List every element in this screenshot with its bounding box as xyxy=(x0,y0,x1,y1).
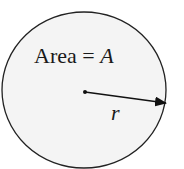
circle xyxy=(2,12,166,168)
radius-label: r xyxy=(111,100,120,125)
circle-diagram: Area = A r xyxy=(0,0,184,169)
area-label: Area = A xyxy=(34,43,114,68)
